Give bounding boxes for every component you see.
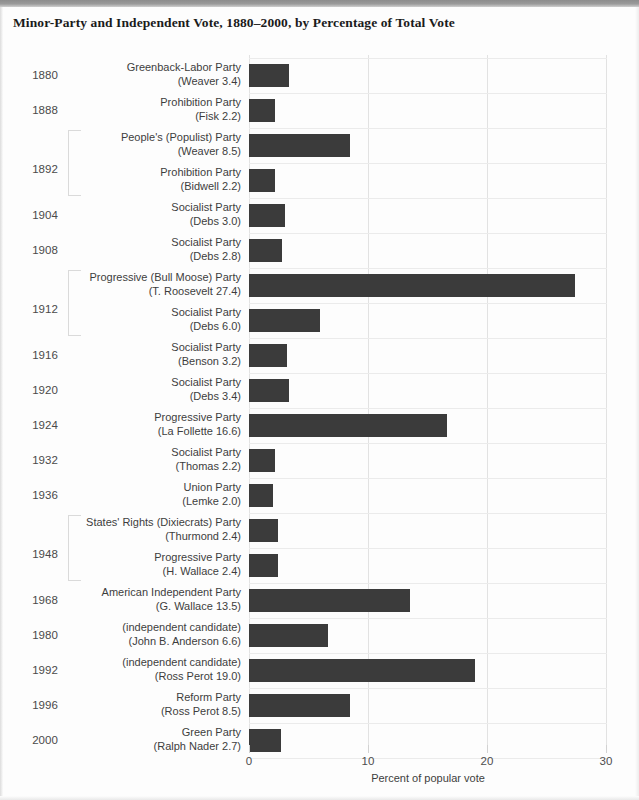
row-party-label: (independent candidate)(Ross Perot 19.0)	[86, 656, 241, 683]
chart-row[interactable]: 1968American Independent Party(G. Wallac…	[0, 583, 639, 618]
bar	[249, 414, 447, 437]
chart-row[interactable]: Prohibition Party(Bidwell 2.2)	[0, 163, 639, 198]
row-year-label: 1924	[22, 419, 68, 431]
candidate-and-value: (La Follette 16.6)	[86, 425, 241, 439]
candidate-and-value: (Bidwell 2.2)	[86, 180, 241, 194]
row-party-label: Union Party(Lemke 2.0)	[86, 481, 241, 508]
party-name: Prohibition Party	[86, 96, 241, 110]
candidate-and-value: (Debs 2.8)	[86, 250, 241, 264]
party-name: Reform Party	[86, 691, 241, 705]
row-party-label: Greenback-Labor Party(Weaver 3.4)	[86, 61, 241, 88]
chart-plot-area: 1880Greenback-Labor Party(Weaver 3.4)188…	[0, 55, 639, 745]
chart-row[interactable]: 1996Reform Party(Ross Perot 8.5)	[0, 688, 639, 723]
party-name: Prohibition Party	[86, 166, 241, 180]
chart-row[interactable]: 1920Socialist Party(Debs 3.4)	[0, 373, 639, 408]
candidate-and-value: (Debs 3.4)	[86, 390, 241, 404]
bar	[249, 554, 278, 577]
bar	[249, 99, 275, 122]
party-name: (independent candidate)	[86, 621, 241, 635]
party-name: Socialist Party	[86, 201, 241, 215]
row-party-label: Socialist Party(Thomas 2.2)	[86, 446, 241, 473]
party-name: People's (Populist) Party	[86, 131, 241, 145]
year-group-bracket	[68, 130, 81, 196]
chart-row[interactable]: 1924Progressive Party(La Follette 16.6)	[0, 408, 639, 443]
bar	[249, 519, 278, 542]
row-party-label: Prohibition Party(Bidwell 2.2)	[86, 166, 241, 193]
x-axis-title: Percent of popular vote	[249, 772, 607, 784]
chart-row[interactable]: Progressive Party(H. Wallace 2.4)	[0, 548, 639, 583]
candidate-and-value: (Fisk 2.2)	[86, 110, 241, 124]
chart-row[interactable]: 1932Socialist Party(Thomas 2.2)	[0, 443, 639, 478]
party-name: Union Party	[86, 481, 241, 495]
chart-row[interactable]: 1888Prohibition Party(Fisk 2.2)	[0, 93, 639, 128]
row-year-label: 1880	[22, 69, 68, 81]
x-tick-label-20: 20	[472, 755, 502, 767]
row-year-label: 1936	[22, 489, 68, 501]
candidate-and-value: (Benson 3.2)	[86, 355, 241, 369]
chart-row[interactable]: 1904Socialist Party(Debs 3.0)	[0, 198, 639, 233]
row-party-label: Progressive Party(La Follette 16.6)	[86, 411, 241, 438]
party-name: Progressive (Bull Moose) Party	[86, 271, 241, 285]
party-name: (independent candidate)	[86, 656, 241, 670]
party-name: Green Party	[86, 726, 241, 740]
candidate-and-value: (T. Roosevelt 27.4)	[86, 285, 241, 299]
candidate-and-value: (Debs 3.0)	[86, 215, 241, 229]
year-group-bracket	[68, 270, 81, 336]
chart-row[interactable]: 1908Socialist Party(Debs 2.8)	[0, 233, 639, 268]
party-name: Socialist Party	[86, 236, 241, 250]
chart-x-axis: Percent of popular vote 0102030	[0, 745, 639, 800]
candidate-and-value: (Thomas 2.2)	[86, 460, 241, 474]
chart-row[interactable]: Socialist Party(Debs 6.0)	[0, 303, 639, 338]
bar	[249, 204, 285, 227]
scan-edge-top	[0, 0, 639, 7]
candidate-and-value: (H. Wallace 2.4)	[86, 565, 241, 579]
bar	[249, 659, 475, 682]
chart-row[interactable]: 1892People's (Populist) Party(Weaver 8.5…	[0, 128, 639, 163]
row-party-label: Socialist Party(Debs 6.0)	[86, 306, 241, 333]
chart-row[interactable]: 1936Union Party(Lemke 2.0)	[0, 478, 639, 513]
chart-row[interactable]: 1992(independent candidate)(Ross Perot 1…	[0, 653, 639, 688]
row-year-label: 1920	[22, 384, 68, 396]
party-name: Socialist Party	[86, 446, 241, 460]
bar	[249, 274, 575, 297]
party-name: Socialist Party	[86, 341, 241, 355]
bar	[249, 624, 328, 647]
year-group-bracket	[68, 515, 81, 581]
bar	[249, 64, 289, 87]
party-name: Progressive Party	[86, 551, 241, 565]
candidate-and-value: (Thurmond 2.4)	[86, 530, 241, 544]
x-tick-30	[606, 745, 607, 753]
x-tick-label-0: 0	[234, 755, 264, 767]
chart-row[interactable]: 1880Greenback-Labor Party(Weaver 3.4)	[0, 58, 639, 93]
candidate-and-value: (Ross Perot 8.5)	[86, 705, 241, 719]
row-party-label: Progressive Party(H. Wallace 2.4)	[86, 551, 241, 578]
chart-row[interactable]: 1916Socialist Party(Benson 3.2)	[0, 338, 639, 373]
bar	[249, 134, 350, 157]
x-tick-label-30: 30	[591, 755, 621, 767]
row-year-label: 1968	[22, 594, 68, 606]
bar	[249, 589, 410, 612]
party-name: Progressive Party	[86, 411, 241, 425]
row-year-label: 1980	[22, 629, 68, 641]
row-party-label: Reform Party(Ross Perot 8.5)	[86, 691, 241, 718]
chart-row[interactable]: 1912Progressive (Bull Moose) Party(T. Ro…	[0, 268, 639, 303]
row-year-label: 1904	[22, 209, 68, 221]
chart-row[interactable]: 1980(independent candidate)(John B. Ande…	[0, 618, 639, 653]
row-party-label: Progressive (Bull Moose) Party(T. Roosev…	[86, 271, 241, 298]
row-party-label: States' Rights (Dixiecrats) Party(Thurmo…	[86, 516, 241, 543]
candidate-and-value: (Debs 6.0)	[86, 320, 241, 334]
row-year-label: 1908	[22, 244, 68, 256]
bar	[249, 379, 289, 402]
chart-page: Minor-Party and Independent Vote, 1880–2…	[0, 0, 639, 800]
row-year-label: 1992	[22, 664, 68, 676]
candidate-and-value: (Ross Perot 19.0)	[86, 670, 241, 684]
party-name: Socialist Party	[86, 376, 241, 390]
party-name: States' Rights (Dixiecrats) Party	[86, 516, 241, 530]
row-party-label: American Independent Party(G. Wallace 13…	[86, 586, 241, 613]
party-name: American Independent Party	[86, 586, 241, 600]
row-party-label: Socialist Party(Benson 3.2)	[86, 341, 241, 368]
chart-row[interactable]: 1948States' Rights (Dixiecrats) Party(Th…	[0, 513, 639, 548]
page-title: Minor-Party and Independent Vote, 1880–2…	[13, 15, 455, 31]
candidate-and-value: (John B. Anderson 6.6)	[86, 635, 241, 649]
row-party-label: People's (Populist) Party(Weaver 8.5)	[86, 131, 241, 158]
